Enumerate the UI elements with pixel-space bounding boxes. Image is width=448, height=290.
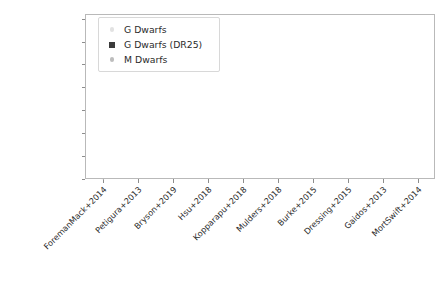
legend-marker-icon [104,57,120,62]
legend-item: M Dwarfs [104,52,213,67]
chart-legend: G DwarfsG Dwarfs (DR25)M Dwarfs [98,17,220,72]
legend-label: G Dwarfs (DR25) [120,39,202,50]
legend-marker-swatch [110,57,115,62]
legend-marker-icon [104,27,120,32]
chart-figure: Number of Earth-like Planets per 100 Sta… [0,0,448,290]
legend-label: G Dwarfs [120,24,167,35]
x-axis-tick-label-text: Hsu+2018 [0,184,213,290]
legend-label: M Dwarfs [120,54,167,65]
legend-item: G Dwarfs (DR25) [104,37,213,52]
legend-marker-swatch [109,42,115,48]
legend-marker-swatch [110,27,115,32]
legend-marker-icon [104,42,120,48]
x-axis-tick-label: Hsu+2018 [0,183,215,290]
legend-item: G Dwarfs [104,22,213,37]
y-axis-tick-mark [82,179,86,180]
